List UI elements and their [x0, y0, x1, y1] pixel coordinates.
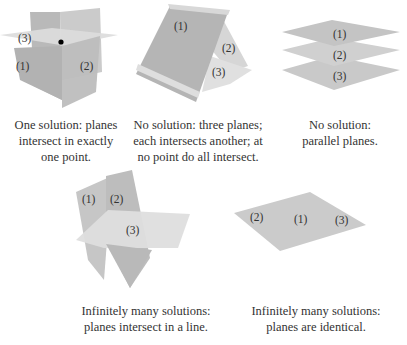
- caption-line: One solution: planes: [0, 117, 132, 133]
- caption-line: intersect in exactly: [0, 133, 132, 149]
- plane-1-front: [14, 46, 62, 100]
- plane-label-3: (3): [126, 224, 140, 237]
- plane-2-lower: [106, 244, 152, 288]
- plane-label-2: (2): [80, 60, 94, 73]
- identical-planes-diagram: (2) (1) (3): [230, 185, 380, 260]
- plane-label-1: (1): [294, 213, 308, 226]
- plane-label-1: (1): [174, 20, 188, 33]
- intersection-point: [58, 39, 63, 44]
- plane-label-3: (3): [18, 32, 32, 45]
- panel-no-solution-parallel: (1) (2) (3): [270, 0, 407, 110]
- panel-no-solution-pairwise: (1) (2) (3): [130, 0, 265, 110]
- panel-infinite-line: (1) (2) (3): [60, 170, 230, 295]
- plane-label-1: (1): [16, 60, 30, 73]
- caption-one-solution: One solution: planes intersect in exactl…: [0, 117, 132, 165]
- caption-line: each intersects another; at: [128, 133, 268, 149]
- caption-line: parallel planes.: [280, 133, 400, 149]
- plane-label-3: (3): [212, 66, 226, 79]
- panel-infinite-identical: (2) (1) (3): [230, 185, 380, 260]
- caption-line: one point.: [0, 149, 132, 165]
- plane-label-2: (2): [222, 42, 236, 55]
- caption-line: Infinitely many solutions:: [66, 303, 226, 319]
- caption-no-solution-parallel: No solution: parallel planes.: [280, 117, 400, 149]
- planes-line-diagram: (1) (2) (3): [60, 170, 230, 295]
- plane-label-1: (1): [82, 193, 96, 206]
- plane-label-2: (2): [110, 193, 124, 206]
- plane-label-3: (3): [333, 70, 347, 83]
- caption-line: No solution:: [280, 117, 400, 133]
- parallel-planes-diagram: (1) (2) (3): [270, 0, 407, 110]
- caption-line: No solution: three planes;: [128, 117, 268, 133]
- planes-tent-diagram: (1) (2) (3): [130, 0, 265, 110]
- plane-label-3: (3): [335, 214, 349, 227]
- caption-infinite-identical: Infinitely many solutions: planes are id…: [236, 303, 396, 335]
- caption-line: planes intersect in a line.: [66, 319, 226, 335]
- planes-one-point-diagram: (3) (1) (2): [0, 0, 130, 110]
- caption-line: no point do all intersect.: [128, 149, 268, 165]
- plane-label-2: (2): [333, 49, 347, 62]
- caption-infinite-line: Infinitely many solutions: planes inters…: [66, 303, 226, 335]
- caption-line: Infinitely many solutions:: [236, 303, 396, 319]
- caption-no-solution-pairwise: No solution: three planes; each intersec…: [128, 117, 268, 165]
- plane-2: [62, 36, 100, 108]
- plane-label-2: (2): [250, 211, 264, 224]
- caption-line: planes are identical.: [236, 319, 396, 335]
- plane-label-1: (1): [333, 28, 347, 41]
- panel-one-solution: (3) (1) (2): [0, 0, 130, 110]
